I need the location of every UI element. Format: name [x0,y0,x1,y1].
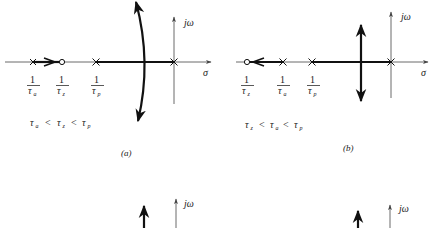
imag-axis-label: jω [399,11,411,22]
svg-text:τ: τ [294,119,298,130]
panel-b: jω σ 1 τ z 1 τ a [236,11,428,153]
imag-axis-label: jω [182,198,194,209]
svg-text:a: a [34,91,37,97]
svg-text:τ: τ [308,85,312,96]
imag-axis-label: jω [182,17,194,28]
svg-text:τ: τ [245,119,249,130]
svg-text:1: 1 [59,74,64,85]
condition-b: τ z < τ a < τ p [245,119,303,131]
svg-text:p: p [97,91,101,97]
panel-a: jω σ 1 τ a 1 τ [5,2,211,158]
svg-text:p: p [299,125,303,131]
svg-text:τ: τ [82,117,86,128]
svg-text:<: < [45,117,51,128]
svg-text:z: z [247,91,251,97]
svg-text:τ: τ [278,85,282,96]
svg-text:a: a [276,125,279,131]
svg-text:a: a [284,91,287,97]
svg-text:z: z [62,123,66,129]
zero-z-marker [59,59,64,64]
svg-text:τ: τ [242,85,246,96]
svg-text:z: z [250,125,254,131]
caption-a: (a) [121,148,132,158]
label-inv-tau-a: 1 τ a [277,74,290,97]
svg-text:τ: τ [28,85,32,96]
imag-axis-label: jω [397,203,409,214]
label-inv-tau-a: 1 τ a [27,74,40,97]
panel-c-partial: jω [144,198,194,228]
svg-text:p: p [313,91,317,97]
label-inv-tau-z: 1 τ z [241,74,254,97]
label-inv-tau-p: 1 τ p [91,74,104,97]
svg-text:p: p [87,123,91,129]
svg-text:τ: τ [57,117,61,128]
panel-d-partial: jω [358,203,409,228]
condition-a: τ a < τ z < τ p [30,117,91,129]
svg-text:τ: τ [30,117,34,128]
real-axis-label: σ [421,67,427,78]
svg-text:1: 1 [30,74,35,85]
svg-text:<: < [71,117,77,128]
svg-text:a: a [36,123,39,129]
svg-text:τ: τ [92,85,96,96]
svg-text:1: 1 [310,74,315,85]
svg-text:1: 1 [280,74,285,85]
svg-text:1: 1 [244,74,249,85]
caption-b: (b) [343,143,354,153]
label-inv-tau-p: 1 τ p [307,74,320,97]
svg-text:z: z [62,91,66,97]
label-inv-tau-z: 1 τ z [56,74,69,97]
svg-text:1: 1 [94,74,99,85]
zero-z-marker [244,59,249,64]
svg-text:τ: τ [57,85,61,96]
svg-text:τ: τ [270,119,274,130]
svg-text:<: < [259,119,265,130]
real-axis-label: σ [203,67,209,78]
root-locus-figure: jω σ 1 τ a 1 τ [0,0,429,228]
svg-text:<: < [283,119,289,130]
